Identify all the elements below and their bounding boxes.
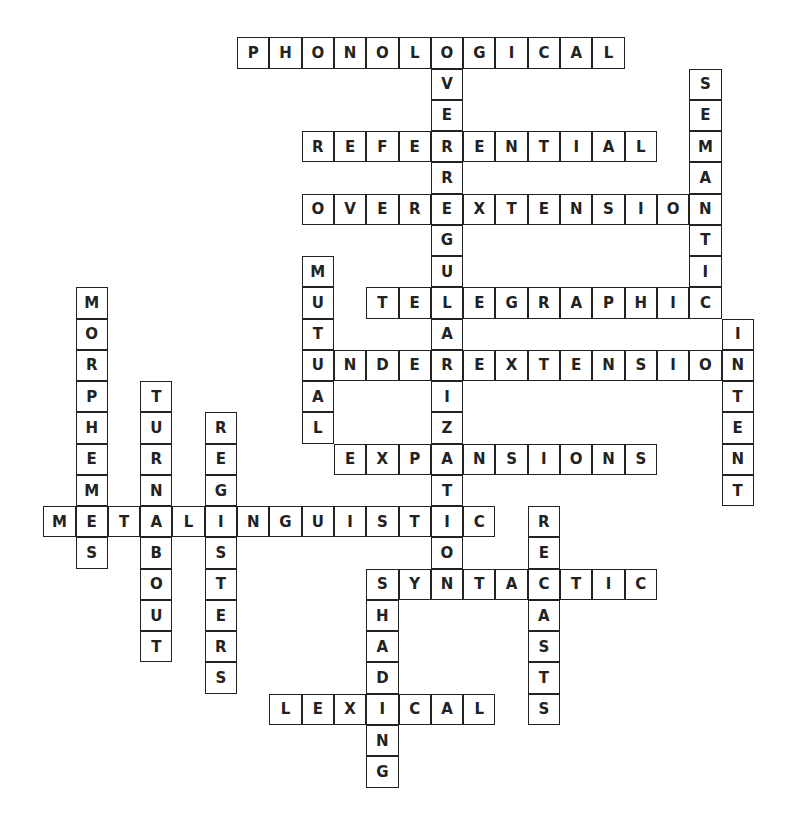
crossword-cell[interactable]: A	[689, 162, 721, 193]
crossword-cell[interactable]: I	[657, 350, 689, 381]
crossword-cell[interactable]: R	[431, 162, 463, 193]
crossword-cell[interactable]: C	[689, 287, 721, 318]
crossword-cell[interactable]: H	[269, 37, 301, 68]
crossword-cell[interactable]: M	[302, 256, 334, 287]
crossword-cell[interactable]: I	[495, 37, 527, 68]
crossword-cell[interactable]: T	[495, 194, 527, 225]
crossword-cell[interactable]: X	[495, 350, 527, 381]
crossword-cell[interactable]: X	[334, 694, 366, 725]
crossword-cell[interactable]: I	[722, 319, 754, 350]
crossword-cell[interactable]: S	[366, 569, 398, 600]
crossword-cell[interactable]: R	[528, 287, 560, 318]
crossword-cell[interactable]: O	[431, 537, 463, 568]
crossword-cell[interactable]: R	[205, 412, 237, 443]
crossword-cell[interactable]: A	[431, 319, 463, 350]
crossword-cell[interactable]: A	[495, 569, 527, 600]
crossword-cell[interactable]: L	[302, 412, 334, 443]
crossword-cell[interactable]: T	[366, 287, 398, 318]
crossword-cell[interactable]: I	[334, 506, 366, 537]
crossword-cell[interactable]: G	[205, 475, 237, 506]
crossword-cell[interactable]: S	[528, 631, 560, 662]
crossword-cell[interactable]: T	[528, 662, 560, 693]
crossword-cell[interactable]: I	[431, 381, 463, 412]
crossword-cell[interactable]: X	[463, 194, 495, 225]
crossword-cell[interactable]: N	[334, 37, 366, 68]
crossword-cell[interactable]: L	[172, 506, 204, 537]
crossword-cell[interactable]: D	[366, 350, 398, 381]
crossword-cell[interactable]: O	[366, 37, 398, 68]
crossword-cell[interactable]: E	[334, 444, 366, 475]
crossword-cell[interactable]: H	[625, 287, 657, 318]
crossword-cell[interactable]: A	[560, 287, 592, 318]
crossword-cell[interactable]: P	[592, 287, 624, 318]
crossword-cell[interactable]: S	[625, 444, 657, 475]
crossword-cell[interactable]: R	[76, 350, 108, 381]
crossword-cell[interactable]: E	[399, 131, 431, 162]
crossword-cell[interactable]: N	[592, 444, 624, 475]
crossword-cell[interactable]: E	[463, 287, 495, 318]
crossword-cell[interactable]: I	[625, 194, 657, 225]
crossword-cell[interactable]: X	[366, 444, 398, 475]
crossword-cell[interactable]: I	[689, 256, 721, 287]
crossword-cell[interactable]: R	[205, 631, 237, 662]
crossword-cell[interactable]: L	[431, 287, 463, 318]
crossword-cell[interactable]: R	[431, 350, 463, 381]
crossword-cell[interactable]: O	[76, 319, 108, 350]
crossword-cell[interactable]: M	[43, 506, 75, 537]
crossword-cell[interactable]: I	[205, 506, 237, 537]
crossword-cell[interactable]: E	[431, 100, 463, 131]
crossword-cell[interactable]: A	[431, 444, 463, 475]
crossword-cell[interactable]: E	[76, 444, 108, 475]
crossword-cell[interactable]: I	[366, 694, 398, 725]
crossword-cell[interactable]: T	[431, 475, 463, 506]
crossword-cell[interactable]: O	[302, 37, 334, 68]
crossword-cell[interactable]: S	[528, 694, 560, 725]
crossword-cell[interactable]: V	[334, 194, 366, 225]
crossword-cell[interactable]: M	[76, 475, 108, 506]
crossword-cell[interactable]: G	[431, 225, 463, 256]
crossword-cell[interactable]: T	[528, 350, 560, 381]
crossword-cell[interactable]: L	[592, 37, 624, 68]
crossword-cell[interactable]: U	[302, 287, 334, 318]
crossword-cell[interactable]: S	[689, 69, 721, 100]
crossword-cell[interactable]: E	[399, 287, 431, 318]
crossword-cell[interactable]: U	[140, 600, 172, 631]
crossword-cell[interactable]: U	[302, 350, 334, 381]
crossword-cell[interactable]: I	[592, 569, 624, 600]
crossword-cell[interactable]: E	[76, 506, 108, 537]
crossword-cell[interactable]: T	[528, 131, 560, 162]
crossword-cell[interactable]: M	[689, 131, 721, 162]
crossword-cell[interactable]: S	[76, 537, 108, 568]
crossword-cell[interactable]: L	[399, 37, 431, 68]
crossword-cell[interactable]: E	[722, 412, 754, 443]
crossword-cell[interactable]: E	[528, 194, 560, 225]
crossword-cell[interactable]: F	[366, 131, 398, 162]
crossword-cell[interactable]: C	[528, 37, 560, 68]
crossword-cell[interactable]: R	[399, 194, 431, 225]
crossword-cell[interactable]: U	[140, 412, 172, 443]
crossword-cell[interactable]: C	[625, 569, 657, 600]
crossword-cell[interactable]: R	[302, 131, 334, 162]
crossword-cell[interactable]: C	[528, 569, 560, 600]
crossword-cell[interactable]: S	[495, 444, 527, 475]
crossword-cell[interactable]: E	[205, 600, 237, 631]
crossword-cell[interactable]: E	[463, 350, 495, 381]
crossword-cell[interactable]: T	[140, 631, 172, 662]
crossword-cell[interactable]: E	[689, 100, 721, 131]
crossword-cell[interactable]: T	[140, 381, 172, 412]
crossword-cell[interactable]: H	[76, 412, 108, 443]
crossword-cell[interactable]: E	[463, 131, 495, 162]
crossword-cell[interactable]: A	[528, 600, 560, 631]
crossword-cell[interactable]: N	[334, 350, 366, 381]
crossword-cell[interactable]: P	[237, 37, 269, 68]
crossword-cell[interactable]: G	[495, 287, 527, 318]
crossword-cell[interactable]: G	[269, 506, 301, 537]
crossword-cell[interactable]: E	[528, 537, 560, 568]
crossword-cell[interactable]: I	[560, 131, 592, 162]
crossword-cell[interactable]: P	[399, 444, 431, 475]
crossword-cell[interactable]: B	[140, 537, 172, 568]
crossword-cell[interactable]: S	[205, 537, 237, 568]
crossword-cell[interactable]: T	[108, 506, 140, 537]
crossword-cell[interactable]: L	[269, 694, 301, 725]
crossword-cell[interactable]: O	[302, 194, 334, 225]
